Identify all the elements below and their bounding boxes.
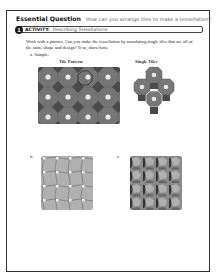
worksheet-frame: Essential Question How can you arrange t… <box>6 10 210 272</box>
part-c-tessellation-image <box>130 156 182 210</box>
activity-header: 1 ACTIVITY: Describing Tessellations <box>16 26 203 33</box>
essential-question-text: How can you arrange tiles to make a tess… <box>86 16 211 22</box>
part-a-label: a. Sample: <box>30 52 49 57</box>
activity-name: Describing Tessellations <box>52 27 107 32</box>
square-pinwheel-tessellation <box>41 156 93 210</box>
tile-pattern-heading: Tile Pattern <box>59 59 83 64</box>
single-tile-cluster <box>133 67 175 123</box>
part-a-letter: a. <box>30 52 33 57</box>
activity-number-badge: 1 <box>15 26 23 34</box>
activity-title: ACTIVITY: Describing Tessellations <box>25 27 107 33</box>
part-b-tessellation-image <box>41 156 93 210</box>
part-b-label: b. <box>30 154 33 159</box>
activity-label: ACTIVITY: <box>25 27 50 32</box>
instructions: Work with a partner. Can you make the te… <box>26 39 196 50</box>
star-lens-tessellation <box>130 156 182 210</box>
single-tiles-heading: Single Tiles <box>135 59 157 64</box>
part-a-name: Sample: <box>34 52 49 57</box>
essential-question-label: Essential Question <box>16 15 81 22</box>
essential-question: Essential Question How can you arrange t… <box>16 15 211 22</box>
tile-pattern-image <box>38 67 120 124</box>
octagon-square-tessellation <box>38 67 120 124</box>
part-c-label: c. <box>117 154 120 159</box>
single-tiles-image <box>133 67 175 123</box>
